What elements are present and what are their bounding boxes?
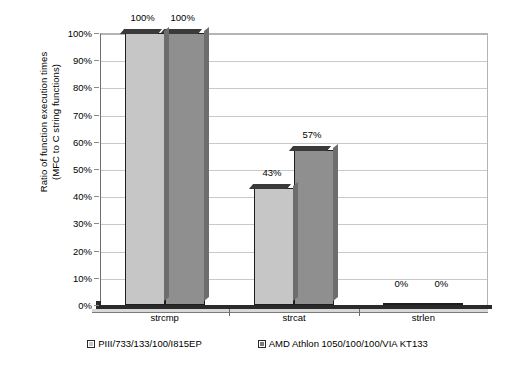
bar-strcat-series-0	[254, 188, 294, 305]
legend-item-1: AMD Athlon 1050/100/100/VIA KT133	[258, 338, 428, 349]
bar-top-face	[289, 146, 331, 151]
bar-value-label: 43%	[262, 167, 281, 178]
bar-value-label: 57%	[303, 129, 322, 140]
bar-value-label: 100%	[130, 12, 154, 23]
bar-strcat-series-1	[294, 150, 334, 305]
chart-legend: PIII/733/133/100/I815EP AMD Athlon 1050/…	[0, 338, 515, 349]
x-axis-category-label: strlen	[412, 312, 435, 323]
x-axis-category-label: strcmp	[150, 312, 179, 323]
bar-side-face	[333, 144, 338, 301]
bar-strcmp-series-0	[125, 33, 165, 305]
bar-side-face	[293, 182, 298, 301]
y-axis-tick-label: 50%	[52, 164, 92, 175]
legend-swatch-amd	[258, 340, 266, 348]
y-axis-tick-label: 70%	[52, 109, 92, 120]
y-axis-tick-label: 10%	[52, 272, 92, 283]
y-axis-tick-mark	[94, 196, 99, 197]
y-axis-tick-mark	[94, 115, 99, 116]
x-axis-category-label: strcat	[282, 312, 305, 323]
bar-value-label: 100%	[171, 12, 195, 23]
x-axis-tick-mark	[229, 309, 230, 316]
y-axis-tick-label: 60%	[52, 136, 92, 147]
bar-value-label: 0%	[435, 278, 449, 289]
bar-strlen-series-1	[423, 303, 463, 305]
y-axis-tick-mark	[94, 278, 99, 279]
y-axis-tick-mark	[94, 223, 99, 224]
y-axis-tick-mark	[94, 142, 99, 143]
bar-side-face	[204, 27, 209, 301]
legend-label-0: PIII/733/133/100/I815EP	[98, 338, 202, 349]
legend-label-1: AMD Athlon 1050/100/100/VIA KT133	[269, 338, 428, 349]
y-axis-tick-mark	[94, 251, 99, 252]
legend-swatch-piii	[87, 340, 95, 348]
bar-chart: Ratio of function execution times (MFC t…	[0, 0, 515, 377]
bar-value-label: 0%	[394, 278, 408, 289]
y-axis-tick-mark	[94, 169, 99, 170]
y-axis-tick-mark	[94, 60, 99, 61]
y-axis-tick-mark	[94, 33, 99, 34]
y-axis-title-line-1: Ratio of function execution times	[38, 0, 50, 252]
y-axis-tick-label: 0%	[52, 300, 92, 311]
y-axis-tick-label: 80%	[52, 82, 92, 93]
y-axis-tick-label: 40%	[52, 191, 92, 202]
y-axis-tick-label: 30%	[52, 218, 92, 229]
x-axis-tick-mark	[359, 309, 360, 316]
y-axis-tick-label: 20%	[52, 245, 92, 256]
bar-top-face	[119, 29, 161, 34]
bar-strcmp-series-1	[165, 33, 205, 305]
y-axis-tick-mark	[94, 87, 99, 88]
bar-side-face	[164, 27, 169, 301]
bar-top-face	[249, 184, 291, 189]
y-axis-tick-label: 100%	[52, 28, 92, 39]
y-axis-tick-label: 90%	[52, 55, 92, 66]
bar-strlen-series-0	[383, 303, 423, 305]
legend-item-0: PIII/733/133/100/I815EP	[87, 338, 202, 349]
y-axis-tick-mark	[94, 305, 99, 306]
